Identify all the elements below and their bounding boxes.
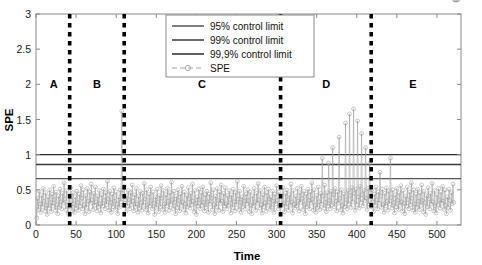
x-tick-label: 450 [388, 228, 406, 240]
region-label: E [409, 78, 416, 90]
x-tick-label: 150 [148, 228, 166, 240]
y-tick-label: 2.5 [16, 43, 31, 55]
legend-label: 95% control limit [210, 21, 284, 32]
y-tick-label: 1 [25, 149, 31, 161]
region-label: D [322, 78, 330, 90]
region-label: A [50, 78, 58, 90]
x-tick-label: 400 [348, 228, 366, 240]
legend-label: SPE [210, 63, 230, 74]
x-axis-title: Time [234, 250, 261, 262]
y-tick-label: 2 [25, 78, 31, 90]
y-tick-label: 3 [25, 8, 31, 20]
x-tick-label: 200 [188, 228, 206, 240]
legend-label: 99,9% control limit [210, 49, 292, 60]
x-tick-label: 0 [33, 228, 39, 240]
x-tick-label: 100 [107, 228, 125, 240]
x-tick-label: 500 [428, 228, 446, 240]
y-tick-label: 0 [25, 219, 31, 231]
x-tick-label: 250 [228, 228, 246, 240]
y-axis-title: SPE [3, 108, 15, 131]
chart-legend: 95% control limit99% control limit99,9% … [166, 15, 314, 77]
y-tick-label: 0.5 [16, 184, 31, 196]
spe-control-chart: 050100150200250300350400450500 00.511.52… [0, 0, 482, 265]
y-tick-label: 1.5 [16, 114, 31, 126]
x-tick-label: 50 [70, 228, 82, 240]
x-tick-label: 350 [308, 228, 326, 240]
legend-label: 99% control limit [210, 35, 284, 46]
region-label: B [93, 78, 101, 90]
x-tick-label: 300 [268, 228, 286, 240]
chart-root: 050100150200250300350400450500 00.511.52… [0, 0, 482, 265]
region-label: C [198, 78, 206, 90]
